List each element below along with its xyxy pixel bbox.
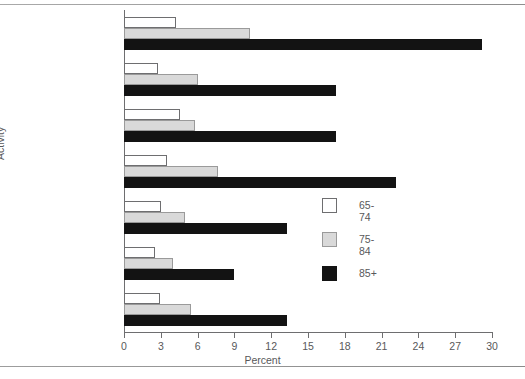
chart-figure: Activity Percent 036912151821242730 Shop… bbox=[0, 0, 525, 379]
x-axis-tick-label: 6 bbox=[183, 340, 213, 352]
x-axis-tick-label: 0 bbox=[109, 340, 139, 352]
bar-group: Shopping bbox=[124, 10, 492, 56]
bar-65-74 bbox=[124, 293, 160, 304]
bar-85-plus bbox=[124, 269, 234, 280]
bar-85-plus bbox=[124, 39, 482, 50]
bar-65-74 bbox=[124, 201, 161, 212]
x-axis-tick-label: 18 bbox=[330, 340, 360, 352]
bar-85-plus bbox=[124, 315, 287, 326]
bar-65-74 bbox=[124, 17, 176, 28]
x-axis-tick bbox=[492, 333, 493, 338]
x-axis-tick-label: 3 bbox=[146, 340, 176, 352]
bar-75-84 bbox=[124, 258, 173, 269]
bar-75-84 bbox=[124, 212, 185, 223]
x-axis-tick-label: 21 bbox=[367, 340, 397, 352]
legend-label-75-84: 75-84 bbox=[359, 233, 374, 257]
bar-group: Dressing bbox=[124, 194, 492, 240]
x-axis-tick-label: 9 bbox=[219, 340, 249, 352]
top-divider-rule bbox=[0, 4, 525, 5]
x-axis-tick bbox=[455, 333, 456, 338]
bottom-divider-rule bbox=[0, 366, 525, 367]
x-axis-tick-label: 15 bbox=[293, 340, 323, 352]
x-axis-title: Percent bbox=[0, 354, 525, 366]
x-axis-tick bbox=[345, 333, 346, 338]
bar-75-84 bbox=[124, 120, 195, 131]
legend-label-65-74: 65-74 bbox=[359, 199, 374, 223]
x-axis-tick bbox=[308, 333, 309, 338]
legend-swatch-icon-85-plus bbox=[322, 266, 337, 281]
bar-65-74 bbox=[124, 155, 167, 166]
x-axis-tick bbox=[234, 333, 235, 338]
bar-75-84 bbox=[124, 28, 250, 39]
x-axis-tick bbox=[124, 333, 125, 338]
bar-65-74 bbox=[124, 247, 155, 258]
legend-swatch-icon-75-84 bbox=[322, 232, 337, 247]
bar-group: Preparing meals bbox=[124, 102, 492, 148]
legend-label-85-plus: 85+ bbox=[359, 267, 377, 279]
bar-group: Getting outside and walking bbox=[124, 286, 492, 332]
bar-85-plus bbox=[124, 223, 287, 234]
x-axis-tick-label: 12 bbox=[256, 340, 286, 352]
plot-area: ShoppingLight houseworkPreparing mealsBa… bbox=[124, 10, 492, 332]
bar-75-84 bbox=[124, 74, 198, 85]
x-axis-tick-label: 24 bbox=[403, 340, 433, 352]
bar-group: Light housework bbox=[124, 56, 492, 102]
x-axis-tick bbox=[161, 333, 162, 338]
bar-85-plus bbox=[124, 131, 336, 142]
x-axis-tick bbox=[271, 333, 272, 338]
x-axis-tick-label: 30 bbox=[477, 340, 507, 352]
bar-group: Bathing bbox=[124, 148, 492, 194]
x-axis-tick bbox=[198, 333, 199, 338]
x-axis-tick bbox=[418, 333, 419, 338]
bar-85-plus bbox=[124, 177, 396, 188]
y-axis-title: Activity bbox=[0, 127, 6, 160]
bar-75-84 bbox=[124, 166, 218, 177]
x-axis-tick-label: 27 bbox=[440, 340, 470, 352]
bar-65-74 bbox=[124, 63, 158, 74]
legend-swatch-icon-65-74 bbox=[322, 198, 337, 213]
bar-75-84 bbox=[124, 304, 191, 315]
bar-group: Getting in and out of bed or chair bbox=[124, 240, 492, 286]
bar-65-74 bbox=[124, 109, 180, 120]
bar-85-plus bbox=[124, 85, 336, 96]
x-axis-tick bbox=[382, 333, 383, 338]
